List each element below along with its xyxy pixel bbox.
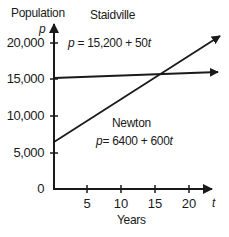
y-tick-label: 5,000 <box>0 146 44 160</box>
x-tick-label: 20 <box>177 197 201 211</box>
x-axis-label: Years <box>117 213 146 227</box>
staidville-equation: p = 15,200 + 50t <box>68 36 151 50</box>
x-tick-label: 15 <box>143 197 167 211</box>
eq-var-t: t <box>148 35 151 50</box>
staidville-label: Staidville <box>90 8 135 22</box>
x-axis-variable: t <box>212 196 215 210</box>
x-tick-label: 10 <box>109 197 133 211</box>
staidville-line <box>54 72 218 78</box>
newton-equation: p= 6400 + 600t <box>96 134 173 148</box>
eq-body: = 15,200 + 50 <box>74 35 147 50</box>
y-tick-label: 10,000 <box>0 109 44 123</box>
y-tick-label: 20,000 <box>0 36 44 50</box>
eq-body: = 6400 + 600 <box>102 133 169 148</box>
newton-label: Newton <box>112 116 151 130</box>
eq-var-t: t <box>170 133 173 148</box>
y-tick-label: 0 <box>0 182 44 196</box>
y-axis-variable: p <box>39 22 45 36</box>
y-tick-label: 15,000 <box>0 72 44 86</box>
x-tick-label: 5 <box>75 197 99 211</box>
y-axis-label: Population <box>11 6 65 20</box>
